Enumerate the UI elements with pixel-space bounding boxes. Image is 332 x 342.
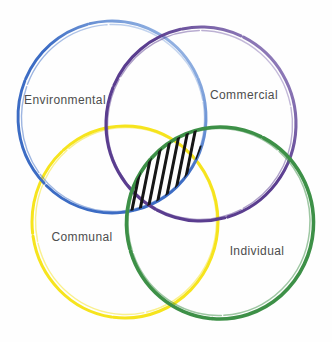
label-individual: Individual xyxy=(230,244,285,258)
environmental-ring-echo xyxy=(14,17,213,219)
circle-environmental xyxy=(13,16,212,219)
environmental-ring xyxy=(13,16,211,218)
individual-ring xyxy=(120,121,320,326)
label-communal: Communal xyxy=(51,230,112,244)
venn-diagram: Environmental Commercial Communal Indivi… xyxy=(0,0,332,342)
label-environmental: Environmental xyxy=(24,93,106,107)
label-commercial: Commercial xyxy=(210,88,278,102)
venn-canvas: Environmental Commercial Communal Indivi… xyxy=(0,0,332,342)
